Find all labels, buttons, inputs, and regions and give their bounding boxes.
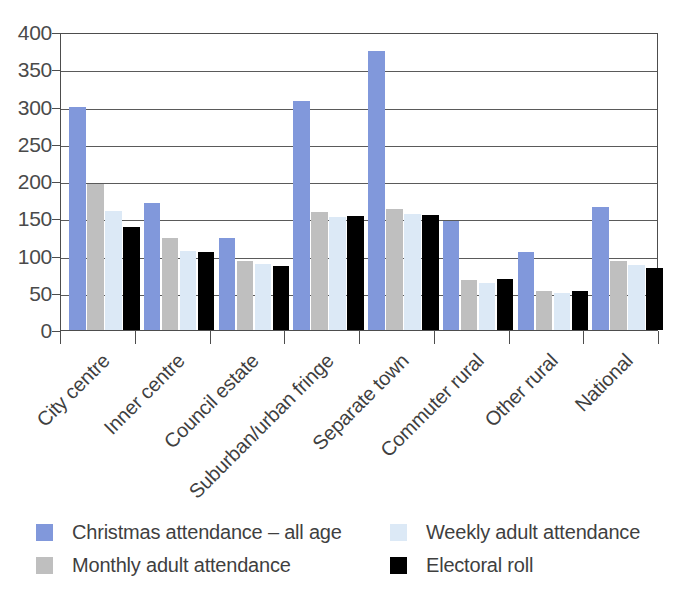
bar-group xyxy=(584,34,659,330)
bar-group xyxy=(435,34,510,330)
bar xyxy=(105,211,122,330)
bar xyxy=(368,51,385,330)
legend-label: Weekly adult attendance xyxy=(426,522,640,542)
y-axis-tick-label: 200 xyxy=(10,171,52,192)
legend-swatch-icon xyxy=(36,524,53,541)
bar xyxy=(144,203,161,330)
chart-legend: Christmas attendance – all ageMonthly ad… xyxy=(36,522,666,584)
x-axis-tick-mark xyxy=(135,331,136,344)
bar xyxy=(461,280,478,330)
y-axis-tick-label: 50 xyxy=(10,283,52,304)
x-axis-category-label: Other rural xyxy=(481,350,561,430)
x-axis-tick-mark xyxy=(434,331,435,344)
x-axis-tick-mark xyxy=(284,331,285,344)
bar xyxy=(646,268,663,330)
bar xyxy=(69,107,86,331)
y-axis-tick-label: 150 xyxy=(10,208,52,229)
bar-chart: 050100150200250300350400 City centreInne… xyxy=(0,0,674,590)
bar xyxy=(219,238,236,330)
bar xyxy=(610,261,627,330)
x-axis-tick-mark xyxy=(658,331,659,344)
x-axis-tick-mark xyxy=(509,331,510,344)
legend-item[interactable]: Weekly adult attendance xyxy=(390,522,640,542)
bar-group xyxy=(285,34,360,330)
x-axis-tick-mark xyxy=(60,331,61,344)
bar xyxy=(628,265,645,330)
bar xyxy=(87,184,104,330)
bar xyxy=(255,264,272,330)
legend-label: Monthly adult attendance xyxy=(72,555,291,575)
y-axis-tick-label: 400 xyxy=(10,22,52,43)
legend-item[interactable]: Christmas attendance – all age xyxy=(36,522,342,542)
legend-item[interactable]: Electoral roll xyxy=(390,555,533,575)
bar xyxy=(592,207,609,330)
bar xyxy=(329,217,346,330)
bar-group xyxy=(510,34,585,330)
y-axis-tick-label: 300 xyxy=(10,97,52,118)
bar xyxy=(180,251,197,330)
bar-group xyxy=(61,34,136,330)
x-axis-tick-mark xyxy=(583,331,584,344)
bar xyxy=(554,293,571,330)
bar xyxy=(293,101,310,330)
bar xyxy=(536,291,553,330)
x-axis-category-label: National xyxy=(571,350,636,415)
legend-item[interactable]: Monthly adult attendance xyxy=(36,555,291,575)
bar xyxy=(237,261,254,330)
legend-swatch-icon xyxy=(390,557,407,574)
y-axis-tick-label: 250 xyxy=(10,134,52,155)
bar xyxy=(443,221,460,331)
legend-label: Christmas attendance – all age xyxy=(72,522,342,542)
bar xyxy=(518,252,535,330)
legend-swatch-icon xyxy=(390,524,407,541)
bar xyxy=(479,283,496,330)
y-axis: 050100150200250300350400 xyxy=(0,0,52,590)
x-axis-tick-mark xyxy=(359,331,360,344)
y-axis-tick-label: 0 xyxy=(10,320,52,341)
plot-wrap xyxy=(60,33,658,331)
bar xyxy=(162,238,179,330)
bar-group xyxy=(360,34,435,330)
bar-group xyxy=(136,34,211,330)
bar xyxy=(311,212,328,330)
y-axis-tick-label: 350 xyxy=(10,59,52,80)
legend-swatch-icon xyxy=(36,557,53,574)
x-axis-category-label: Suburban/urban fringe xyxy=(185,350,337,502)
bar-group xyxy=(211,34,286,330)
legend-label: Electoral roll xyxy=(426,555,533,575)
plot-area xyxy=(60,33,658,331)
y-axis-tick-label: 100 xyxy=(10,246,52,267)
bar xyxy=(404,214,421,330)
bar xyxy=(386,209,403,330)
x-axis-tick-mark xyxy=(210,331,211,344)
